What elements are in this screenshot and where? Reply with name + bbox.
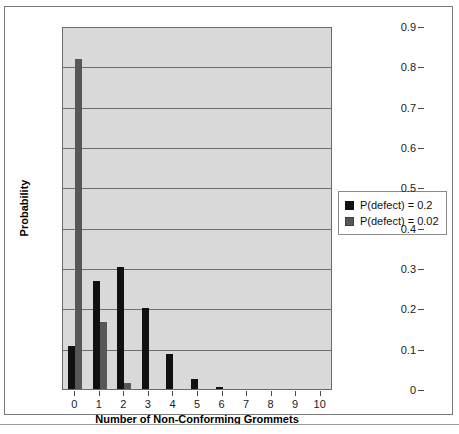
y-tick-mark: [418, 390, 424, 391]
y-tick-label: 0.1: [401, 344, 416, 355]
gridline: [63, 188, 331, 189]
gridline: [63, 229, 331, 230]
bar: [166, 354, 173, 389]
x-tick-mark: [271, 391, 272, 396]
y-tick-mark: [418, 229, 424, 230]
y-tick-mark: [418, 67, 424, 68]
x-tick-label: 6: [218, 398, 224, 410]
x-tick-mark: [172, 391, 173, 396]
gray-swatch: [345, 217, 354, 226]
bar: [68, 346, 75, 389]
y-tick-label: 0.3: [401, 264, 416, 275]
gridline: [63, 269, 331, 270]
x-tick-mark: [99, 391, 100, 396]
bar: [75, 59, 82, 389]
plot-area: [62, 27, 332, 390]
y-tick-mark: [418, 148, 424, 149]
x-tick-label: 7: [243, 398, 249, 410]
y-tick-label: 0: [410, 385, 416, 396]
gridline: [63, 108, 331, 109]
x-tick-mark: [74, 391, 75, 396]
chart-legend: P(defect) = 0.2P(defect) = 0.02: [338, 191, 447, 235]
x-tick-mark: [295, 391, 296, 396]
gridline: [63, 148, 331, 149]
y-tick-mark: [418, 188, 424, 189]
x-tick-label: 8: [268, 398, 274, 410]
bar: [93, 281, 100, 389]
y-tick-label: 0.9: [401, 22, 416, 33]
bar: [216, 387, 223, 389]
y-tick-mark: [418, 350, 424, 351]
legend-label: P(defect) = 0.2: [360, 199, 432, 211]
chart-figure: Probability Number of Non-Conforming Gro…: [4, 6, 453, 415]
bar: [124, 383, 131, 389]
x-tick-mark: [197, 391, 198, 396]
x-tick-label: 0: [71, 398, 77, 410]
y-tick-mark: [418, 309, 424, 310]
bar: [191, 379, 198, 389]
gridline: [63, 67, 331, 68]
x-tick-mark: [123, 391, 124, 396]
y-tick-label: 0.5: [401, 183, 416, 194]
x-tick-label: 2: [120, 398, 126, 410]
bar: [142, 308, 149, 389]
y-axis: [5, 7, 62, 410]
x-tick-label: 4: [169, 398, 175, 410]
x-tick-label: 10: [314, 398, 326, 410]
x-tick-label: 9: [292, 398, 298, 410]
bar: [100, 322, 107, 389]
legend-item: P(defect) = 0.02: [345, 213, 439, 229]
x-tick-mark: [320, 391, 321, 396]
y-tick-label: 0.8: [401, 62, 416, 73]
x-tick-mark: [222, 391, 223, 396]
horizontal-divider: [0, 424, 459, 425]
y-tick-label: 0.2: [401, 304, 416, 315]
x-tick-label: 1: [96, 398, 102, 410]
x-tick-mark: [246, 391, 247, 396]
y-axis-title: Probability: [18, 163, 30, 253]
y-tick-mark: [418, 27, 424, 28]
y-tick-label: 0.4: [401, 223, 416, 234]
y-tick-label: 0.7: [401, 102, 416, 113]
y-tick-label: 0.6: [401, 143, 416, 154]
x-tick-mark: [148, 391, 149, 396]
x-tick-label: 5: [194, 398, 200, 410]
bar: [117, 267, 124, 389]
gridline: [63, 309, 331, 310]
x-tick-label: 3: [145, 398, 151, 410]
legend-label: P(defect) = 0.02: [360, 215, 439, 227]
y-tick-mark: [418, 108, 424, 109]
y-tick-mark: [418, 269, 424, 270]
legend-item: P(defect) = 0.2: [345, 197, 439, 213]
black-swatch: [345, 201, 354, 210]
plot-inner: [63, 28, 331, 389]
